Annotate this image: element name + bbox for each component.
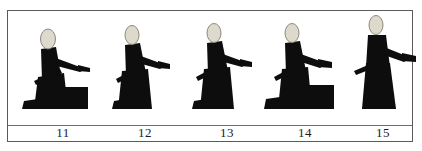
- figure-panel: 11 12: [7, 10, 413, 142]
- silhouette-15: [354, 16, 416, 110]
- lower-body-shape: [34, 73, 68, 109]
- pose-figure-12: [102, 13, 188, 123]
- pose-label-15: 15: [340, 125, 422, 141]
- pose-sequence-stage: 11 12: [8, 11, 412, 141]
- pose-label-12: 12: [102, 125, 188, 141]
- hand-shape: [78, 65, 90, 72]
- pose-figure-15: [340, 13, 422, 123]
- silhouette-12: [112, 26, 170, 110]
- pose-figure-11: [20, 13, 106, 123]
- silhouette-14: [264, 24, 334, 110]
- silhouette-11: [22, 29, 90, 109]
- pose-frame: 15: [340, 9, 422, 141]
- head-shape: [41, 29, 56, 49]
- pose-frame: 13: [184, 9, 270, 141]
- hand-shape: [402, 53, 416, 62]
- pose-label-14: 14: [262, 125, 348, 141]
- pose-frame: 12: [102, 9, 188, 141]
- pose-frame: 11: [20, 9, 106, 141]
- hand-shape: [158, 61, 170, 69]
- hand-shape: [318, 59, 332, 68]
- silhouette-13: [192, 24, 252, 110]
- hand-shape: [240, 59, 252, 67]
- head-shape: [285, 24, 299, 43]
- pose-frame: 14: [262, 9, 348, 141]
- pose-label-13: 13: [184, 125, 270, 141]
- head-shape: [369, 16, 383, 35]
- pose-figure-14: [262, 13, 348, 123]
- head-shape: [207, 24, 221, 43]
- pose-figure-13: [184, 13, 270, 123]
- pose-label-11: 11: [20, 125, 106, 141]
- head-shape: [125, 26, 139, 45]
